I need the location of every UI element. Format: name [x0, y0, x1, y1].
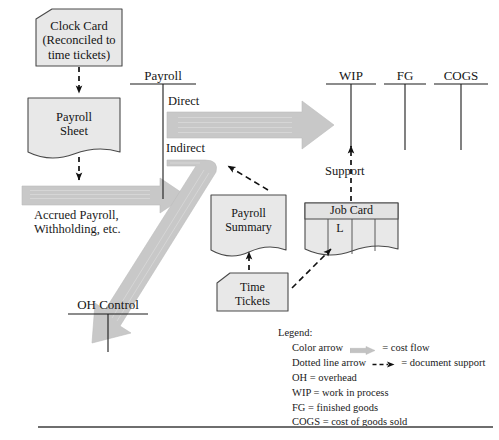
- flow-label-direct: Direct: [168, 94, 199, 109]
- legend-doc-support-pre: Dotted line arrow: [292, 357, 366, 368]
- flow-label-indirect: Indirect: [166, 141, 205, 156]
- clock-card-text: Clock Card (Reconciled to time tickets): [36, 19, 122, 62]
- account-label-oh-control: OH Control: [68, 297, 148, 313]
- legend-item-cost-flow: Color arrow = cost flow: [292, 341, 485, 356]
- bottom-divider: [38, 426, 493, 428]
- legend-item-fg: FG = finished goods: [292, 401, 485, 416]
- dotted-arrow-icon: [372, 359, 396, 368]
- legend-item-document-support: Dotted line arrow = document support: [292, 356, 485, 371]
- color-arrow-icon: [350, 345, 376, 354]
- flow-label-accrued-payroll: Accrued Payroll, Withholding, etc.: [34, 208, 121, 236]
- accrued-line-2: Withholding, etc.: [34, 222, 121, 236]
- time-tickets-text: Time Tickets: [217, 281, 288, 308]
- legend-doc-support-post: = document support: [401, 357, 485, 368]
- flow-label-support: Support: [325, 164, 365, 179]
- legend: Legend: Color arrow = cost flow Dotted l…: [278, 326, 485, 430]
- legend-item-wip: WIP = work in process: [292, 386, 485, 401]
- legend-cost-flow-pre: Color arrow: [292, 342, 343, 353]
- t-account-cogs: [434, 84, 488, 150]
- legend-item-oh: OH = overhead: [292, 371, 485, 386]
- job-card-header-text: Job Card: [305, 204, 398, 218]
- payroll-summary-line-1: Payroll: [211, 207, 286, 221]
- account-label-payroll: Payroll: [130, 68, 196, 84]
- payroll-sheet-line-2: Sheet: [28, 124, 120, 138]
- account-label-cogs: COGS: [434, 68, 488, 84]
- t-account-fg: [384, 84, 426, 150]
- accrued-line-1: Accrued Payroll,: [34, 208, 121, 222]
- time-tickets-line-2: Tickets: [217, 295, 288, 309]
- payroll-sheet-line-1: Payroll: [28, 110, 120, 124]
- diagram-canvas: Clock Card (Reconciled to time tickets) …: [0, 0, 499, 440]
- payroll-sheet-text: Payroll Sheet: [28, 110, 120, 139]
- time-tickets-line-1: Time: [217, 281, 288, 295]
- account-label-wip: WIP: [326, 68, 376, 84]
- legend-list: Color arrow = cost flow Dotted line arro…: [278, 341, 485, 430]
- clock-card-line-3: time tickets): [36, 48, 122, 62]
- job-card-cell-text: L: [328, 222, 352, 236]
- job-card-cell-label: L: [336, 221, 343, 235]
- t-account-oh-control: [68, 314, 148, 352]
- payroll-summary-line-2: Summary: [211, 221, 286, 235]
- job-card-header-label: Job Card: [330, 203, 373, 217]
- t-account-wip: [326, 84, 376, 150]
- account-label-fg: FG: [384, 68, 426, 84]
- support-arrow-summary-to-indirect: [228, 166, 268, 190]
- legend-item-cogs: COGS = cost of goods sold: [292, 415, 485, 430]
- clock-card-line-1: Clock Card: [36, 19, 122, 33]
- clock-card-line-2: (Reconciled to: [36, 33, 122, 47]
- payroll-summary-text: Payroll Summary: [211, 207, 286, 234]
- legend-title: Legend:: [278, 326, 485, 341]
- legend-cost-flow-post: = cost flow: [382, 342, 429, 353]
